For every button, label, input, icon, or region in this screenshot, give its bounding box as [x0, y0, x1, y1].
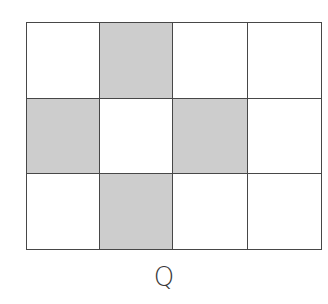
grid-cell: [26, 173, 100, 250]
grid-cell: [247, 173, 322, 250]
grid-cell: [247, 22, 322, 99]
grid-cell: [99, 173, 173, 250]
figure-label: Q: [0, 262, 328, 292]
grid-cell: [26, 98, 100, 174]
grid-figure: [26, 22, 321, 249]
grid-cell: [172, 173, 248, 250]
grid-cell: [247, 98, 322, 174]
grid-cell: [172, 22, 248, 99]
grid-cell: [172, 98, 248, 174]
grid-cell: [26, 22, 100, 99]
grid-cell: [99, 98, 173, 174]
grid-cell: [99, 22, 173, 99]
